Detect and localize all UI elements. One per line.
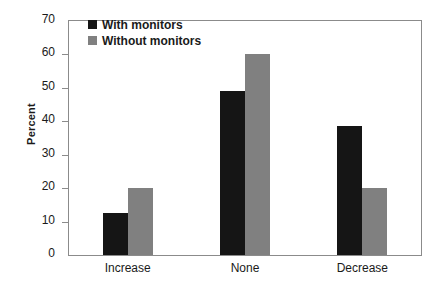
y-axis-tick-mark [62, 155, 68, 156]
bars-layer [69, 21, 421, 255]
y-axis-tick-label: 70 [42, 12, 55, 26]
bar-decrease-with-monitors [337, 126, 362, 255]
y-axis-tick-mark [62, 54, 68, 55]
bar-none-with-monitors [220, 91, 245, 255]
x-axis-label: None [185, 261, 305, 275]
bar-decrease-without-monitors [362, 188, 387, 255]
legend-item-label: With monitors [102, 18, 183, 32]
y-axis-tick-mark [62, 121, 68, 122]
bar-none-without-monitors [245, 54, 270, 255]
y-axis-tick-label: 40 [42, 112, 55, 126]
y-axis-tick-mark [62, 188, 68, 189]
y-axis-tick-label: 20 [42, 179, 55, 193]
y-axis-tick-label: 30 [42, 146, 55, 160]
bar-increase-with-monitors [103, 213, 128, 255]
chart-legend: With monitorsWithout monitors [88, 17, 201, 49]
legend-item: Without monitors [88, 33, 201, 48]
y-axis-tick-label: 60 [42, 45, 55, 59]
y-axis-tick-label: 50 [42, 79, 55, 93]
y-axis-tick-mark [62, 222, 68, 223]
bar-chart: Percent 010203040506070 IncreaseNoneDecr… [0, 0, 435, 286]
x-axis-label: Increase [68, 261, 188, 275]
y-axis-tick-label: 0 [48, 246, 55, 260]
y-axis-title: Percent [25, 89, 37, 159]
legend-item-label: Without monitors [102, 34, 201, 48]
x-axis-label: Decrease [302, 261, 422, 275]
gray-square-swatch [88, 36, 97, 45]
black-square-swatch [88, 20, 97, 29]
y-axis-tick-mark [62, 88, 68, 89]
legend-item: With monitors [88, 17, 201, 32]
y-axis-tick-label: 10 [42, 213, 55, 227]
bar-increase-without-monitors [128, 188, 153, 255]
